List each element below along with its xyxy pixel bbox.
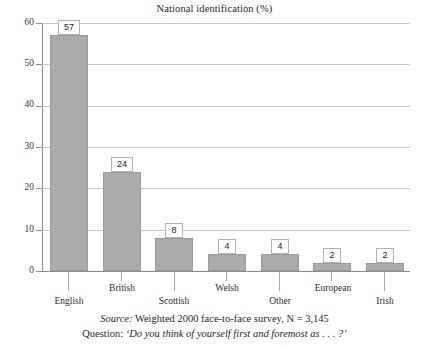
x-label-british: British [109, 284, 135, 294]
x-label-european: European [315, 284, 351, 294]
x-tick-mark-4 [226, 272, 227, 281]
value-label-scottish: 8 [165, 223, 183, 238]
value-label-european: 2 [323, 248, 341, 263]
plot-area: 57 24 8 4 4 2 2 [42, 23, 410, 271]
value-label-irish: 2 [376, 248, 394, 263]
bar-british[interactable] [103, 172, 141, 271]
y-axis-labels: 60 50 40 30 20 10 0 [0, 0, 34, 348]
x-label-scottish: Scottish [159, 297, 190, 307]
x-tick-mark-5 [279, 272, 280, 291]
bar-chart-figure: National identification (%) 60 50 40 30 … [0, 0, 429, 348]
value-label-other: 4 [271, 239, 289, 254]
gridline-30 [42, 147, 410, 148]
y-tick-label-10: 10 [6, 225, 34, 235]
gridline-40 [42, 106, 410, 107]
value-label-welsh: 4 [218, 239, 236, 254]
gridline-50 [42, 64, 410, 65]
question-note: Question: ‘Do you think of yourself firs… [0, 326, 429, 341]
x-tick-mark-3 [174, 272, 175, 291]
x-label-welsh: Welsh [215, 284, 239, 294]
y-tick-label-20: 20 [6, 183, 34, 193]
x-label-other: Other [269, 297, 291, 307]
y-tick-label-40: 40 [6, 100, 34, 110]
chart-footnotes: Source: Weighted 2000 face-to-face surve… [0, 311, 429, 341]
x-tick-mark-1 [68, 272, 69, 291]
x-tick-mark-6 [331, 272, 332, 281]
x-tick-mark-7 [384, 272, 385, 291]
bar-irish[interactable] [366, 263, 404, 271]
source-label: Source: [100, 313, 132, 324]
question-label: Question: [82, 328, 123, 339]
bar-other[interactable] [261, 254, 299, 271]
x-label-irish: Irish [376, 297, 393, 307]
x-label-english: English [54, 297, 83, 307]
chart-title: National identification (%) [0, 3, 429, 14]
y-tick-label-0: 0 [6, 266, 34, 276]
bar-scottish[interactable] [155, 238, 193, 271]
y-tick-label-60: 60 [6, 18, 34, 28]
gridline-60 [42, 23, 410, 24]
value-label-english: 57 [58, 20, 80, 35]
source-note: Source: Weighted 2000 face-to-face surve… [0, 311, 429, 326]
bar-english[interactable] [50, 35, 88, 271]
bar-european[interactable] [313, 263, 351, 271]
y-tick-label-30: 30 [6, 142, 34, 152]
x-tick-mark-2 [121, 272, 122, 281]
source-text: Weighted 2000 face-to-face survey, N = 3… [135, 313, 329, 324]
gridline-20 [42, 188, 410, 189]
bar-welsh[interactable] [208, 254, 246, 271]
question-text: ‘Do you think of yourself first and fore… [126, 328, 347, 339]
y-tick-label-50: 50 [6, 59, 34, 69]
value-label-british: 24 [111, 157, 133, 172]
gridline-10 [42, 230, 410, 231]
